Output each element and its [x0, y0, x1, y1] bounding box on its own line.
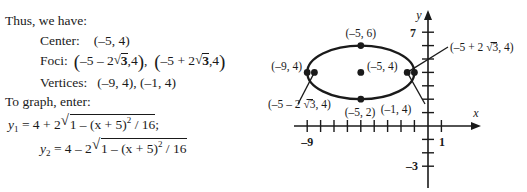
equation-y1: y1 = 4 + 21 – (x + 5)2 / 16;: [8, 114, 159, 134]
y2-radicand: 1 – (x + 5)2 / 16: [101, 138, 187, 155]
label-focus-right: (–5 + 2 √3, 4): [450, 41, 514, 54]
to-graph-line: To graph, enter:: [5, 95, 91, 109]
paren-close-2: ): [219, 51, 225, 72]
x-axis-arrow: [471, 122, 481, 130]
focus-1-post: ,4: [128, 53, 138, 68]
y-tick-label-neg3: –3: [405, 159, 418, 173]
vertices-line: Vertices:(–9, 4), (–1, 4): [40, 76, 176, 90]
point-top-covertex: [357, 42, 364, 49]
foci-label: Foci:: [40, 53, 68, 68]
vertices-value: (–9, 4), (–1, 4): [97, 75, 176, 90]
point-bottom-covertex: [357, 96, 364, 103]
svg-text:(–5 + 2 √3, 4): (–5 + 2 √3, 4): [450, 41, 514, 54]
x-tick-label-1: 1: [439, 135, 445, 149]
focus-2-post: ,4: [209, 53, 219, 68]
point-left-vertex: [304, 69, 311, 76]
center-label: Center:: [40, 33, 80, 48]
y-axis-label: y: [415, 8, 422, 22]
vertices-label: Vertices:: [40, 75, 87, 90]
y1-semicolon: ;: [155, 117, 159, 132]
center-value: (–5, 4): [94, 33, 130, 48]
graph-svg: –9 1 7 –3 y x (–5, 6) (–5, 4) (–9,: [268, 0, 527, 192]
label-right-vertex: (–1, 4): [381, 103, 412, 116]
foci-comma: ,: [144, 53, 154, 68]
svg-text:(–5 – 2 √3, 4): (–5 – 2 √3, 4): [268, 98, 331, 111]
ellipse-graph: –9 1 7 –3 y x (–5, 6) (–5, 4) (–9,: [268, 0, 527, 192]
sqrt-y1: 1 – (x + 5)2 / 16: [61, 114, 156, 131]
leader-focus-right: [407, 72, 425, 104]
y1-eq: = 4 + 2: [22, 117, 61, 132]
sqrt-3-focus-1: 3: [114, 53, 128, 68]
label-top-vertex: (–5, 6): [345, 27, 376, 40]
label-focus-left: (–5 – 2 √3, 4): [268, 98, 331, 111]
x-tick-label-neg9: –9: [300, 135, 313, 149]
focus-1-pre: –5 – 2: [80, 53, 114, 68]
x-axis-label: x: [472, 106, 479, 120]
solution-text-column: Thus, we have: Center:(–5, 4) Foci:(–5 –…: [0, 0, 268, 192]
y2-eq: = 4 – 2: [54, 141, 92, 156]
label-left-vertex: (–9, 4): [271, 60, 302, 73]
foci-line: Foci:(–5 – 23,4), (–5 + 23,4): [40, 53, 225, 68]
y1-radicand: 1 – (x + 5)2 / 16: [70, 114, 156, 131]
y1-subscript: 1: [14, 124, 19, 134]
focus-2-pre: –5 + 2: [161, 53, 196, 68]
y-axis-arrow: [424, 10, 432, 20]
sqrt-3-focus-2: 3: [195, 53, 209, 68]
sqrt-y2: 1 – (x + 5)2 / 16: [92, 138, 187, 155]
point-center: [357, 69, 364, 76]
equation-y2: y2 = 4 – 21 – (x + 5)2 / 16: [40, 138, 187, 158]
figure-container: Thus, we have: Center:(–5, 4) Foci:(–5 –…: [0, 0, 527, 192]
intro-line: Thus, we have:: [5, 14, 87, 28]
y2-subscript: 2: [46, 148, 51, 158]
label-bottom-vertex: (–5, 2): [345, 106, 376, 119]
center-line: Center:(–5, 4): [40, 34, 130, 48]
label-center: (–5, 4): [367, 60, 398, 73]
y-tick-label-7: 7: [410, 26, 416, 40]
